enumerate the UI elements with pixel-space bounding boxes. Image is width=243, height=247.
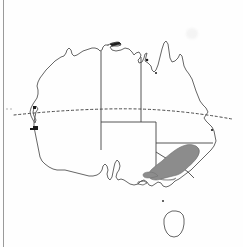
australia-map-svg (0, 0, 243, 247)
city-marker-perth (33, 126, 38, 130)
tropic-of-capricorn-line (14, 109, 232, 119)
city-marker-gulf-carpentaria (146, 59, 149, 62)
city-marker-west-coast-north (33, 106, 36, 109)
city-marker-north-queensland (155, 72, 157, 74)
city-marker-east-coast (211, 129, 213, 131)
tasmania-outline (164, 211, 184, 237)
island-dot-marker (162, 200, 164, 202)
city-marker-perth-secondary (30, 128, 33, 130)
distribution-map-figure: Distribution map of Australia (0, 0, 243, 247)
border-sa-qld-nsw (141, 122, 156, 152)
